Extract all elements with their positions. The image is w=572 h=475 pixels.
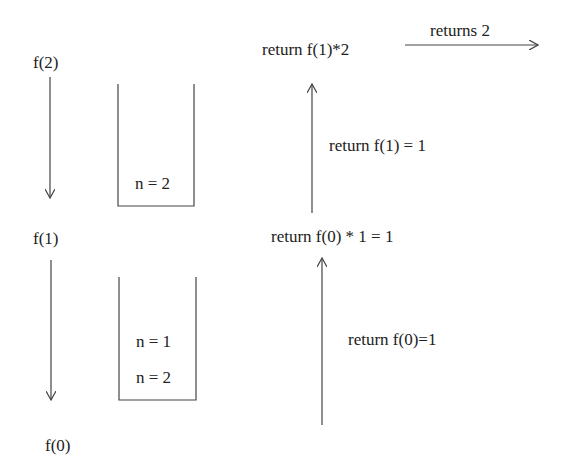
call-f0: f(0) bbox=[45, 437, 70, 454]
stack1-frame-n2: n = 2 bbox=[135, 175, 170, 192]
recursion-diagram: f(2) f(1) f(0) n = 2 n = 1 n = 2 return … bbox=[0, 0, 572, 475]
return-bottom-label: return f(0)=1 bbox=[348, 331, 436, 348]
return-mid: return f(0) * 1 = 1 bbox=[271, 228, 393, 245]
stack2-frame-n1: n = 1 bbox=[136, 333, 171, 350]
return-mid-label: return f(1) = 1 bbox=[329, 137, 426, 154]
call-f2: f(2) bbox=[33, 54, 58, 71]
return-top: return f(1)*2 bbox=[262, 41, 349, 58]
stack2-frame-n2: n = 2 bbox=[136, 369, 171, 386]
call-f1: f(1) bbox=[33, 230, 58, 247]
returns-final: returns 2 bbox=[430, 22, 490, 39]
